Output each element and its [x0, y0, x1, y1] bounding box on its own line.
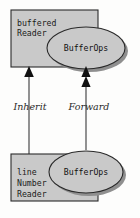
- forward-edge-label: Forward: [68, 101, 110, 112]
- diagram-canvas: buffered Reader BufferOps Inherit Forwar…: [0, 0, 140, 218]
- line-number-reader-label-line1: line: [17, 167, 37, 177]
- inherit-edge-label: Inherit: [12, 101, 46, 112]
- bufferops-sub-label: BufferOps: [64, 167, 108, 177]
- edge-inherit[interactable]: Inherit: [12, 66, 46, 155]
- line-number-reader-label-line3: Reader: [17, 189, 47, 199]
- uml-diagram: buffered Reader BufferOps Inherit Forwar…: [0, 0, 140, 218]
- buffered-reader-label-line1: buffered: [17, 18, 57, 28]
- edge-forward[interactable]: Forward: [68, 66, 110, 150]
- line-number-reader-label-line2: Number: [17, 178, 47, 188]
- bufferops-super-label: BufferOps: [64, 43, 108, 53]
- forward-arrowhead-icon-inner: [81, 76, 90, 87]
- buffered-reader-label-line2: Reader: [17, 28, 47, 38]
